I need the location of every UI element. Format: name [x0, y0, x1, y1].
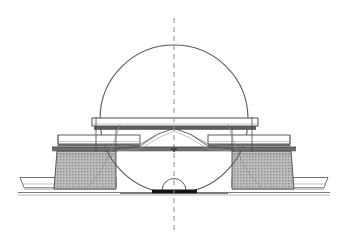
column-left-hatched: [54, 151, 116, 189]
slab-upper-deck: [92, 118, 258, 129]
slab-intermediate-left: [58, 135, 140, 146]
technical-drawing-canvas: [0, 0, 348, 249]
column-right-hatched: [232, 151, 294, 189]
slab-intermediate-right: [208, 135, 290, 146]
cross-section-svg: [0, 0, 348, 249]
